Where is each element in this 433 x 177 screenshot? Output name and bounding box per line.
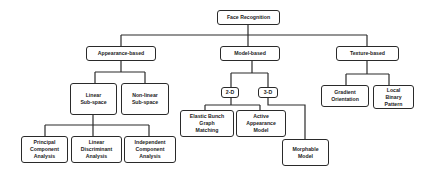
node-lda: Linear Discriminant Analysis — [71, 136, 122, 163]
node-model-based: Model-based — [220, 46, 280, 61]
node-local-binary-pattern: Local Binary Pattern — [373, 85, 414, 109]
node-morphable-model: Morphable Model — [282, 139, 329, 166]
node-active-appearance-model: Active Appearance Model — [236, 110, 286, 137]
node-3d: 3-D — [258, 87, 278, 98]
node-linear-subspace: Linear Sub-space — [70, 83, 117, 115]
node-appearance-based: Appearance-based — [86, 46, 156, 61]
node-face-recognition: Face Recognition — [217, 10, 280, 25]
node-gradient-orientation: Gradient Orientation — [321, 85, 369, 107]
node-pca: Principal Component Analysis — [21, 136, 68, 163]
node-nonlinear-subspace: Non-linear Sub-space — [121, 83, 169, 115]
node-2d: 2-D — [221, 87, 239, 98]
node-elastic-bunch-graph-matching: Elastic Bunch Graph Matching — [180, 110, 234, 137]
node-texture-based: Texture-based — [336, 46, 399, 61]
node-ica: Independent Component Analysis — [124, 136, 176, 163]
